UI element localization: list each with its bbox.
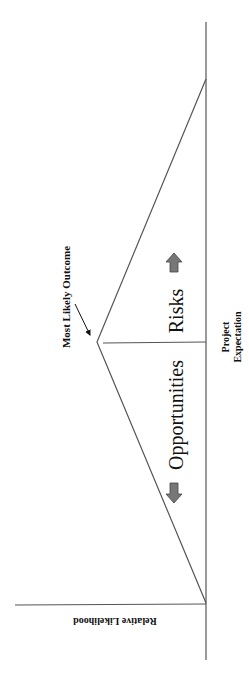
triangle-distribution <box>97 79 206 603</box>
opportunities-label: Opportunities <box>165 360 188 470</box>
project-expectation-label-line2: Expectation <box>232 311 243 363</box>
opportunities-arrow-icon <box>166 483 182 503</box>
project-expectation-line <box>103 342 206 343</box>
most-likely-outcome-label: Most Likely Outcome <box>60 246 72 348</box>
relative-likelihood-label: Relative Likelihood <box>73 616 157 627</box>
project-expectation-label-line1: Project <box>220 321 231 353</box>
distribution-diagram: Most Likely Outcome Risks Opportunities … <box>0 0 249 698</box>
most-likely-pointer-arrow <box>75 304 90 335</box>
likelihood-axis <box>15 604 206 605</box>
risks-arrow-icon <box>166 253 182 272</box>
risks-label: Risks <box>165 289 187 334</box>
